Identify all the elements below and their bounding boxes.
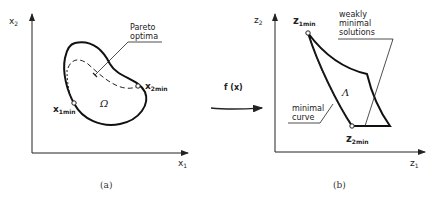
minimal-label-line2: curve xyxy=(292,113,314,122)
pareto-label-line1: Pareto xyxy=(130,23,156,32)
panel-b-caption: (b) xyxy=(333,180,346,190)
z2-axis-label: z2 xyxy=(254,15,263,26)
pareto-optima-curve xyxy=(68,60,138,88)
z1-axis-label: z1 xyxy=(410,158,419,169)
x1-axis-label: x1 xyxy=(178,158,187,169)
mapping-label: f (x) xyxy=(224,83,243,92)
mapping: f (x) xyxy=(211,83,262,109)
pareto-label-line2: optima xyxy=(130,32,158,41)
weak-label-line1: weakly xyxy=(339,10,367,19)
minimal-label-line1: minimal xyxy=(292,104,324,113)
panel-a-caption: (a) xyxy=(100,180,112,190)
x1min-label: x1min xyxy=(53,104,76,115)
z2min-label: z2min xyxy=(346,133,369,145)
diagram-canvas: x2 x1 x1min x2min Ω Pareto optima (a) f … xyxy=(0,0,435,202)
feasible-region-omega xyxy=(64,42,146,125)
x2min-point xyxy=(136,84,140,88)
pareto-leader-line xyxy=(95,42,162,75)
lambda-label: Λ xyxy=(341,87,349,98)
z2min-point xyxy=(350,124,354,128)
x2-axis-label: x2 xyxy=(9,16,18,27)
weak-label-line3: solutions xyxy=(339,28,375,37)
panel-b: z2 z1 z1min z2min Λ weakly minimal solut… xyxy=(254,10,425,190)
omega-label: Ω xyxy=(99,98,108,109)
x1min-point xyxy=(72,101,76,105)
x2min-label: x2min xyxy=(145,81,168,92)
z1min-label: z1min xyxy=(293,15,316,27)
panel-a: x2 x1 x1min x2min Ω Pareto optima (a) xyxy=(9,14,188,190)
mapping-arrow xyxy=(211,108,262,109)
weak-label-line2: minimal xyxy=(339,19,371,28)
weak-leader-line xyxy=(338,39,393,126)
z1min-point xyxy=(306,31,310,35)
